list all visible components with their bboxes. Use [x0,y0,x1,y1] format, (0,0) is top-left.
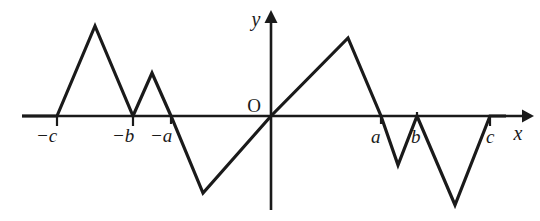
tick-label-minus-b: −b [112,125,134,146]
graph-canvas: y x O −c −b −a a b c [0,0,540,221]
origin-label: O [247,95,261,116]
y-axis-arrowhead [265,10,278,23]
x-axis-label: x [513,122,523,144]
tick-label-c: c [486,126,495,147]
tick-label-minus-a: −a [150,125,172,146]
tick-label-a: a [371,126,381,147]
y-axis-label: y [250,8,261,31]
x-axis-arrowhead [522,110,534,123]
tick-label-b: b [411,126,421,147]
tick-label-minus-c: −c [36,125,58,146]
function-graph-figure: y x O −c −b −a a b c [0,0,540,221]
